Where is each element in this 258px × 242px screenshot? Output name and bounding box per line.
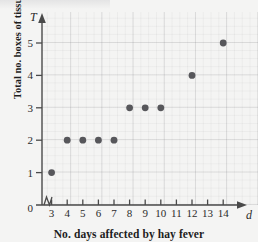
y-tick-label: 5 [28,37,34,49]
x-tick-label: 10 [155,207,167,219]
scatter-plot-figure: 5 4 3 2 1 0 3 4 5 6 7 8 9 10 11 12 13 14… [0,0,258,242]
data-point [64,137,71,144]
x-tick-label: 14 [218,207,230,219]
x-tick-label: 12 [187,207,198,219]
y-axis [36,13,46,205]
x-tick-label: 8 [127,207,133,219]
x-tick-label: 4 [64,207,70,219]
y-tick-label: 2 [28,134,34,146]
data-point [111,137,118,144]
data-point [79,137,86,144]
data-point [126,104,133,111]
x-tick-label: 3 [49,207,55,219]
y-tick-labels: 5 4 3 2 1 0 [28,37,34,214]
y-tick-label: 3 [28,102,34,114]
data-point [142,104,149,111]
x-tick-label: 9 [142,207,148,219]
x-tick-label: 6 [96,207,102,219]
x-axis-title: No. days affected by hay fever [0,228,258,240]
x-tick-labels: 3 4 5 6 7 8 9 10 11 12 13 14 [49,207,229,219]
data-point [220,40,227,47]
origin-label: 0 [28,202,34,214]
y-axis-variable-label: T [30,10,38,24]
y-tick-label: 1 [28,167,34,179]
axis-break-zigzag [44,197,52,205]
y-axis-arrowhead [38,13,46,23]
data-point [48,169,55,176]
x-axis-variable-label: d [246,208,253,222]
data-point-series [48,40,226,176]
data-point [189,72,196,79]
x-tick-label: 11 [171,207,182,219]
x-tick-label: 13 [202,207,214,219]
y-tick-label: 4 [28,69,34,81]
plot-canvas: 5 4 3 2 1 0 3 4 5 6 7 8 9 10 11 12 13 14… [0,0,258,242]
x-tick-label: 7 [111,207,117,219]
data-point [95,137,102,144]
x-tick-label: 5 [80,207,86,219]
data-point [157,104,164,111]
y-axis-title: Total no. boxes of tissues purchased [12,0,23,113]
